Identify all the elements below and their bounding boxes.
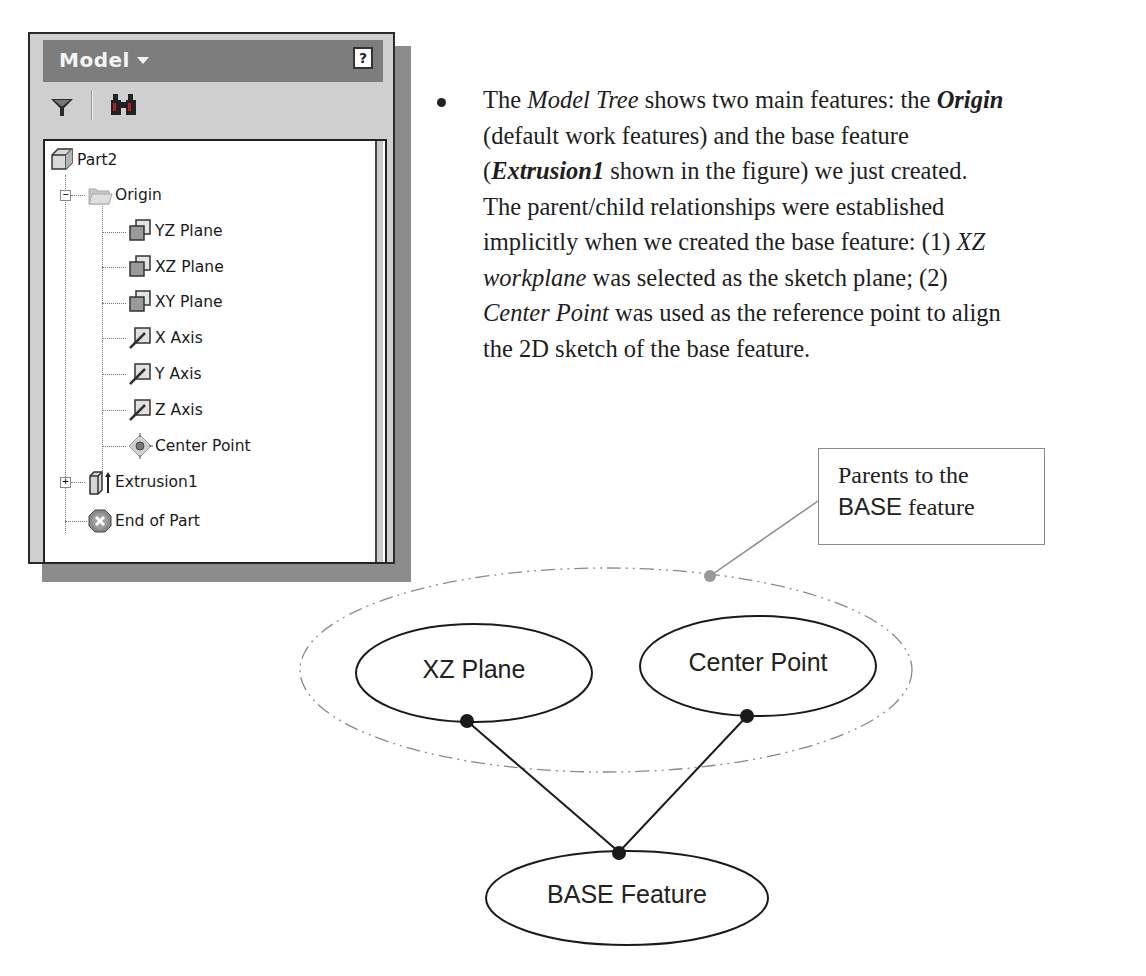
callout-leader-line [710,501,818,576]
base-feature-label: BASE Feature [507,880,747,909]
connection-dot [612,846,626,860]
callout-box: Parents to the BASE feature [818,448,1045,545]
callout-line-2-rest: feature [902,494,975,520]
callout-line-1: Parents to the [838,462,969,488]
connection-dot [740,709,754,723]
link-center-to-base [619,716,747,852]
callout-base-word: BASE [838,493,902,520]
center-point-label: Center Point [648,648,868,677]
xz-plane-label: XZ Plane [374,655,574,684]
leader-dot [704,570,716,582]
connection-dot [460,714,474,728]
link-xz-to-base [467,721,619,852]
